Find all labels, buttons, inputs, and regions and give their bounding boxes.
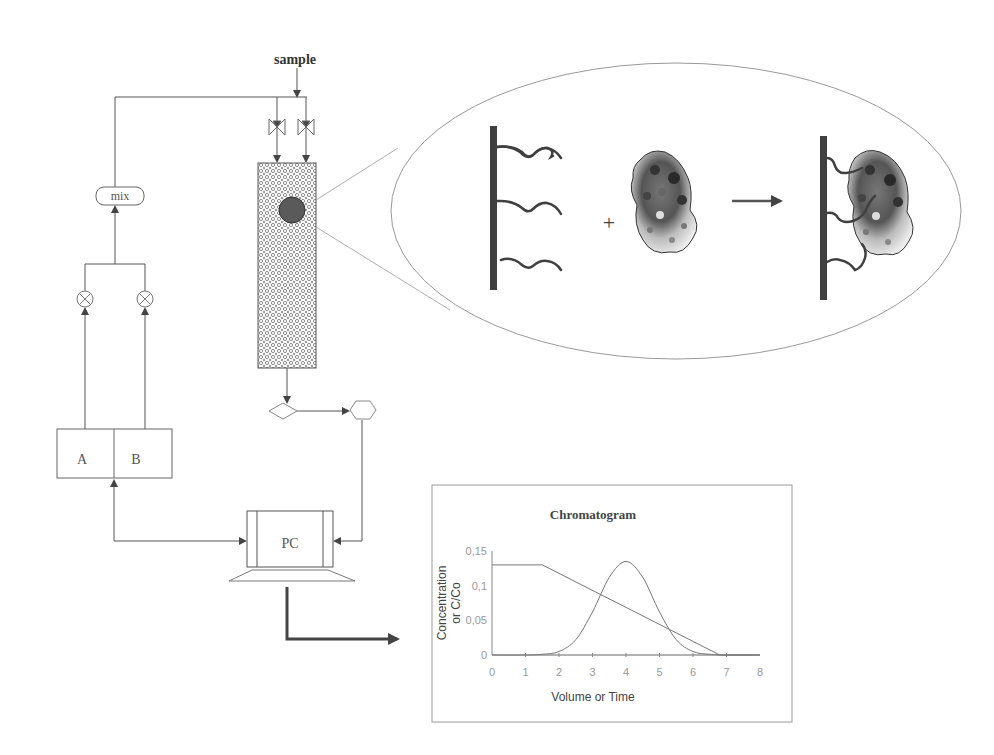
svg-text:7: 7 <box>723 666 729 678</box>
plus-sign: + <box>603 210 615 235</box>
svg-text:5: 5 <box>656 666 662 678</box>
svg-text:0: 0 <box>481 649 487 661</box>
svg-text:0: 0 <box>489 666 495 678</box>
svg-text:0,15: 0,15 <box>466 545 487 557</box>
chromatography-diagram: sample + <box>0 0 994 755</box>
reservoir-a-label: A <box>77 452 88 467</box>
svg-text:2: 2 <box>556 666 562 678</box>
pump-b-icon <box>137 291 153 307</box>
svg-text:0,1: 0,1 <box>472 580 487 592</box>
pump-a-icon <box>77 291 93 307</box>
svg-text:3: 3 <box>589 666 595 678</box>
callout-line-top <box>316 148 398 200</box>
svg-text:4: 4 <box>623 666 629 678</box>
column-bead-icon <box>279 197 305 223</box>
detector-diamond-icon <box>269 403 297 419</box>
chart-title: Chromatogram <box>550 507 637 522</box>
pc-label: PC <box>281 536 298 551</box>
pump-lines <box>85 207 145 429</box>
y-axis-label-line2: or C/Co <box>449 582 463 624</box>
svg-text:6: 6 <box>690 666 696 678</box>
output-arrow <box>287 587 397 639</box>
control-line <box>114 481 245 541</box>
svg-text:0,05: 0,05 <box>466 614 487 626</box>
mixer-label: mix <box>111 189 130 203</box>
svg-text:8: 8 <box>757 666 763 678</box>
fraction-collector-hexagon-icon <box>350 401 376 419</box>
chromatogram-chart: Chromatogram Concentration or C/Co 0 0,0… <box>432 485 792 722</box>
support-surface-right <box>820 136 827 300</box>
x-axis-label: Volume or Time <box>551 690 635 704</box>
chromatography-column <box>258 163 316 368</box>
support-surface-left <box>490 126 497 290</box>
reservoir-b-label: B <box>131 452 140 467</box>
sample-label: sample <box>274 52 316 67</box>
svg-text:1: 1 <box>522 666 528 678</box>
y-axis-label-line1: Concentration <box>435 566 449 641</box>
